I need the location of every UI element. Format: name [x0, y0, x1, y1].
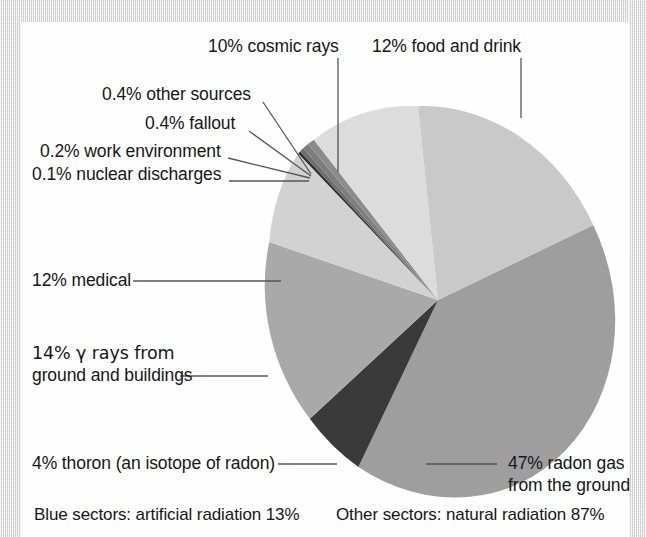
label-nuclear-discharges: 0.1% nuclear discharges [32, 164, 221, 185]
label-radon-line2: from the ground [508, 475, 630, 496]
label-food-and-drink: 12% food and drink [372, 36, 521, 57]
label-work-environment: 0.2% work environment [40, 141, 221, 162]
footer-artificial-radiation: Blue sectors: artificial radiation 13% [34, 505, 300, 525]
label-thoron: 4% thoron (an isotope of radon) [32, 453, 275, 474]
label-gamma-line2: ground and buildings [32, 365, 193, 386]
label-fallout: 0.4% fallout [145, 113, 235, 134]
label-radon-line1: 47% radon gas [508, 453, 624, 474]
pie-chart-figure: 10% cosmic rays 12% food and drink 0.4% … [0, 0, 646, 537]
label-cosmic-rays: 10% cosmic rays [208, 36, 339, 57]
label-medical: 12% medical [32, 270, 131, 291]
label-gamma-line1: 14% γ rays from [32, 343, 175, 364]
footer-natural-radiation: Other sectors: natural radiation 87% [336, 505, 605, 525]
leader-line-other-sources [263, 102, 311, 174]
label-other-sources: 0.4% other sources [102, 84, 251, 105]
